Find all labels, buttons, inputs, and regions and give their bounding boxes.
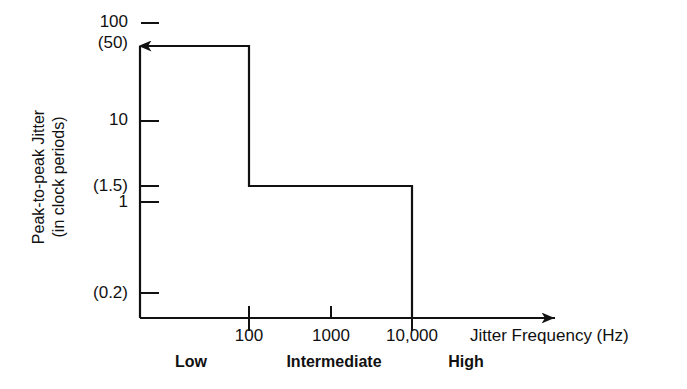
x-tick-label-1000: 1000: [291, 326, 371, 345]
y-tick-label-100: 100: [44, 12, 128, 31]
x-tick-label-100: 100: [209, 326, 289, 345]
y-axis-title-line1: Peak-to-peak Jitter: [29, 62, 49, 292]
region-label-low: Low: [143, 352, 239, 371]
y-axis-title-line2: (in clock periods): [49, 62, 69, 292]
jitter-tolerance-chart: 100 (50) 10 (1.5) 1 (0.2) 100 1000 10,00…: [0, 0, 687, 389]
region-label-high: High: [426, 352, 506, 371]
jitter-mask-step-curve: [141, 46, 555, 318]
x-axis-title: Jitter Frequency (Hz): [470, 326, 629, 345]
region-label-intermediate: Intermediate: [264, 352, 404, 371]
y-tick-label-50: (50): [44, 33, 128, 52]
x-tick-label-10000: 10,000: [367, 326, 457, 345]
y-axis-title: Peak-to-peak Jitter (in clock periods): [29, 62, 73, 292]
